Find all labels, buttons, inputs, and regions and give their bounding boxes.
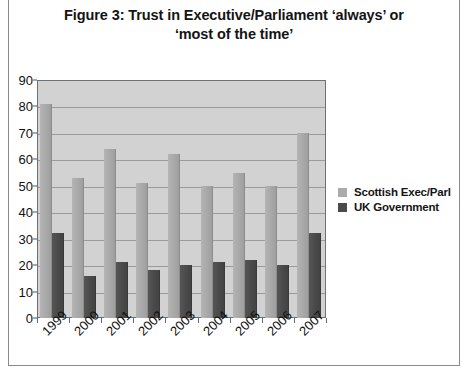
- bar-scottish-exec-parl[interactable]: [40, 104, 52, 318]
- y-axis-tick-label: 20: [19, 258, 33, 273]
- y-axis-tick-label: 90: [19, 73, 33, 88]
- bar-group: [165, 80, 197, 318]
- y-axis: 0102030405060708090: [10, 80, 37, 318]
- bar-uk-government[interactable]: [52, 233, 64, 318]
- legend-swatch-uk: [338, 203, 347, 212]
- legend-item-label: Scottish Exec/Parl: [354, 186, 451, 198]
- chart-legend: Scottish Exec/ParlUK Government: [338, 186, 456, 216]
- y-axis-tick-label: 40: [19, 205, 33, 220]
- bar-group: [262, 80, 294, 318]
- y-axis-tick-label: 10: [19, 284, 33, 299]
- bar-group: [198, 80, 230, 318]
- y-axis-tick-label: 50: [19, 178, 33, 193]
- legend-item[interactable]: UK Government: [338, 201, 456, 213]
- bar-scottish-exec-parl[interactable]: [201, 186, 213, 318]
- figure-title: Figure 3: Trust in Executive/Parliament …: [19, 6, 449, 44]
- bar-scottish-exec-parl[interactable]: [233, 173, 245, 318]
- bar-scottish-exec-parl[interactable]: [136, 183, 148, 318]
- y-axis-tick-label: 30: [19, 231, 33, 246]
- bar-scottish-exec-parl[interactable]: [265, 186, 277, 318]
- bar-scottish-exec-parl[interactable]: [297, 133, 309, 318]
- y-axis-tick-label: 70: [19, 125, 33, 140]
- bar-uk-government[interactable]: [309, 233, 321, 318]
- bar-group: [133, 80, 165, 318]
- bar-scottish-exec-parl[interactable]: [72, 178, 84, 318]
- x-axis: 199920002001200220032004200520062007: [37, 322, 337, 370]
- y-axis-tick-label: 80: [19, 99, 33, 114]
- bar-group: [230, 80, 262, 318]
- bar-group: [101, 80, 133, 318]
- bar-group: [37, 80, 69, 318]
- y-axis-tick-label: 60: [19, 152, 33, 167]
- figure-title-line-1: Figure 3: Trust in Executive/Parliament …: [19, 6, 449, 25]
- bars-layer: [37, 80, 326, 318]
- figure-title-line-2: ‘most of the time’: [19, 25, 449, 44]
- legend-item[interactable]: Scottish Exec/Parl: [338, 186, 456, 198]
- legend-item-label: UK Government: [354, 201, 439, 213]
- bar-scottish-exec-parl[interactable]: [104, 149, 116, 318]
- bar-scottish-exec-parl[interactable]: [168, 154, 180, 318]
- legend-swatch-scottish: [338, 188, 347, 197]
- bar-group: [69, 80, 101, 318]
- y-axis-tick-label: 0: [26, 311, 33, 326]
- bar-group: [294, 80, 326, 318]
